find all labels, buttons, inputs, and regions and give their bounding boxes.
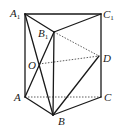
label-C1: C1 xyxy=(103,8,114,22)
label-B1: B1 xyxy=(38,27,49,41)
label-C: C xyxy=(104,91,112,103)
edge-B1-B xyxy=(53,32,54,115)
label-O: O xyxy=(28,59,36,71)
label-A1: A1 xyxy=(9,7,21,21)
label-B: B xyxy=(58,115,65,127)
label-A: A xyxy=(13,91,21,103)
edge-O-D xyxy=(39,56,99,64)
edge-B1-C1 xyxy=(54,14,101,32)
edge-B1-D xyxy=(54,32,99,56)
prism-diagram: A1 C1 B1 D O A C B xyxy=(0,0,121,130)
label-D: D xyxy=(102,52,111,64)
